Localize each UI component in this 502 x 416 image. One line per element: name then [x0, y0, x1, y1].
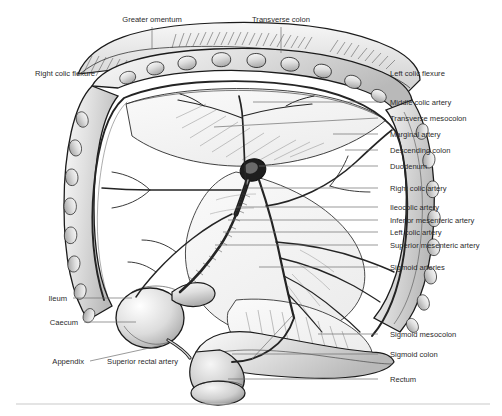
label-inferior-mesenteric-artery: Inferior mesenteric artery — [390, 216, 475, 225]
label-greater-omentum: Greater omentum — [122, 15, 182, 24]
transverse-mesocolon-structure — [126, 89, 386, 167]
label-left-colic-artery: Left colic artery — [390, 228, 442, 237]
label-transverse-mesocolon: Transverse mesocolon — [390, 114, 467, 123]
label-rectum: Rectum — [390, 375, 416, 384]
label-duodenum: Duodenum — [390, 162, 427, 171]
label-superior-mesenteric-artery: Superior mesenteric artery — [390, 241, 480, 250]
label-sigmoid-arteries: Sigmoid arteries — [390, 263, 445, 272]
label-ileum: Ileum — [48, 294, 67, 303]
label-ileocolic-artery: Ileocolic artery — [390, 203, 439, 212]
appendix-structure — [168, 340, 190, 358]
label-descending-colon: Descending colon — [390, 146, 450, 155]
label-marginal-artery: Marginal artery — [390, 130, 441, 139]
label-sigmoid-colon: Sigmoid colon — [390, 350, 438, 359]
label-sigmoid-mesocolon: Sigmoid mesocolon — [390, 330, 456, 339]
label-caecum: Caecum — [50, 318, 78, 327]
label-middle-colic-artery: Middle colic artery — [390, 98, 451, 107]
anatomy-figure: Greater omentumTransverse colonRight col… — [0, 0, 502, 416]
ileum-structure — [172, 283, 215, 307]
label-right-colic-flexure: Right colic flexure — [35, 69, 95, 78]
ascending-colon-structure — [64, 86, 118, 325]
label-appendix: Appendix — [52, 357, 84, 366]
label-transverse-colon: Transverse colon — [252, 15, 310, 24]
label-right-colic-artery: Right colic artery — [390, 184, 447, 193]
label-left-colic-flexure: Left colic flexure — [390, 69, 445, 78]
label-superior-rectal-artery: Superior rectal artery — [107, 357, 178, 366]
